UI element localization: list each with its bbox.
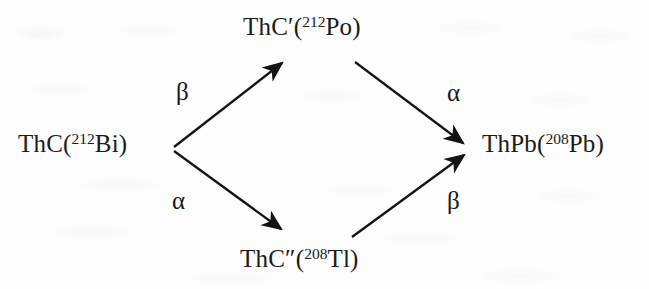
- decay-label-beta-upper-left: β: [176, 79, 189, 104]
- decay-label-alpha-upper-right: α: [447, 80, 460, 105]
- node-parent-mass-number: 212: [72, 130, 95, 147]
- node-parent-suffix: Bi): [95, 130, 128, 157]
- node-branch-lower-prefix: ThC″(: [240, 245, 304, 272]
- node-parent-prefix: ThC(: [18, 130, 72, 157]
- node-branch-upper-suffix: Po): [326, 13, 361, 40]
- node-parent: ThC(212Bi): [18, 131, 127, 156]
- decay-diagram-figure: ThC′(212Po) ThC(212Bi) ThPb(208Pb) ThC″(…: [0, 0, 649, 289]
- node-branch-lower: ThC″(208Tl): [240, 246, 359, 271]
- decay-label-beta-lower-right: β: [447, 188, 460, 213]
- arrow-parent-to-lower: [174, 151, 281, 229]
- node-product-mass-number: 208: [546, 130, 569, 147]
- node-branch-lower-suffix: Tl): [327, 245, 358, 272]
- node-product-prefix: ThPb(: [482, 130, 546, 157]
- node-branch-upper: ThC′(212Po): [243, 14, 361, 39]
- node-product-suffix: Pb): [569, 130, 604, 157]
- node-product: ThPb(208Pb): [482, 131, 604, 156]
- node-branch-upper-prefix: ThC′(: [243, 13, 302, 40]
- decay-label-alpha-lower-left: α: [172, 188, 185, 213]
- node-branch-lower-mass-number: 208: [304, 245, 327, 262]
- arrow-parent-to-upper: [174, 63, 282, 147]
- node-branch-upper-mass-number: 212: [302, 13, 325, 30]
